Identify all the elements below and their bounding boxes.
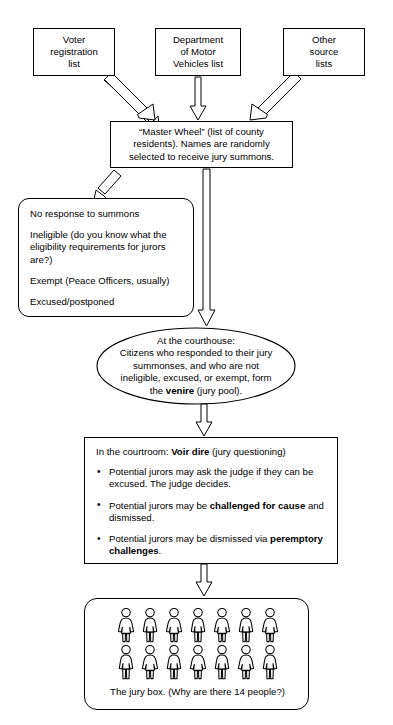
juror-figure-10	[164, 644, 184, 680]
source-box-voter-registration-list-text: Voter registration list	[48, 34, 99, 71]
venire-ellipse	[97, 328, 295, 404]
exclusion-item-no-response: No response to summons	[30, 208, 182, 220]
jury-people-group	[85, 607, 310, 680]
source-line-3: Vehicles list	[173, 58, 223, 69]
master-wheel-box: “Master Wheel” (list of county residents…	[110, 121, 293, 168]
venire-line-1: At the courthouse:	[120, 335, 273, 347]
source-box-dmv-list: Department of Motor Vehicles list	[155, 28, 241, 76]
venire-line-4: ineligible, excused, or exempt, form	[120, 372, 273, 384]
source-line-3: list	[68, 58, 80, 69]
juror-figure-3	[164, 607, 184, 643]
master-wheel-line-1: “Master Wheel” (list of county	[139, 126, 264, 137]
jury-selection-flowchart: Voter registration list Department of Mo…	[0, 0, 393, 725]
venire-line-5-post: (jury pool).	[194, 385, 242, 396]
arrow-other-to-master-wheel-head	[250, 104, 268, 120]
juror-figure-1	[116, 607, 136, 643]
juror-figure-5	[212, 607, 232, 643]
voir-dire-header: In the courtroom: Voir dire (jury questi…	[96, 446, 328, 458]
bullet-glyph-icon: •	[97, 533, 101, 545]
arrow-voir-dire-to-jury-box	[196, 564, 212, 596]
juror-figure-13	[236, 644, 256, 680]
exclusion-item-exempt: Exempt (Peace Officers, usually)	[30, 275, 182, 287]
juror-figure-11	[188, 644, 208, 680]
jury-people-row-top	[116, 607, 280, 643]
arrow-voter-to-master-wheel-head	[138, 104, 156, 120]
juror-figure-8	[116, 644, 136, 680]
arrow-other-to-master-wheel-shaft	[258, 72, 302, 116]
source-box-dmv-list-text: Department of Motor Vehicles list	[171, 34, 225, 71]
juror-figure-14	[260, 644, 280, 680]
bullet-3-post: .	[159, 545, 162, 556]
arrow-dmv-to-master-wheel	[190, 77, 206, 120]
jury-people-row-bottom	[116, 644, 280, 680]
venire-line-5: the venire (jury pool).	[120, 385, 273, 397]
source-box-other-source-lists: Other source lists	[283, 28, 365, 76]
master-wheel-line-2: residents). Names are randomly	[133, 138, 270, 149]
source-box-other-source-lists-text: Other source lists	[308, 34, 341, 71]
voir-dire-bullet-1: •Potential jurors may ask the judge if t…	[94, 466, 328, 490]
source-line-1: Other	[312, 34, 336, 45]
source-line-2: registration	[50, 46, 97, 57]
exclusion-item-ineligible: Ineligible (do you know what the eligibi…	[30, 229, 182, 266]
bullet-3-pre: Potential jurors may be dismissed via	[109, 533, 270, 544]
juror-figure-6	[236, 607, 256, 643]
juror-figure-2	[140, 607, 160, 643]
bullet-1-pre: Potential jurors may ask the judge if th…	[109, 466, 313, 489]
venire-ellipse-text: At the courthouse: Citizens who responde…	[98, 332, 294, 400]
voir-dire-bullet-3: •Potential jurors may be dismissed via p…	[94, 533, 328, 557]
juror-figure-12	[212, 644, 232, 680]
source-box-voter-registration-list: Voter registration list	[33, 28, 115, 76]
source-line-2: source	[310, 46, 339, 57]
voir-dire-box: In the courtroom: Voir dire (jury questi…	[84, 437, 338, 564]
bullet-2-pre: Potential jurors may be	[109, 500, 210, 511]
arrow-master-wheel-to-exclusions-shaft	[98, 170, 121, 194]
source-line-3: lists	[316, 58, 333, 69]
bullet-glyph-icon: •	[97, 499, 101, 511]
juror-figure-7	[260, 607, 280, 643]
venire-line-2: Citizens who responded to their jury	[120, 347, 273, 359]
voir-dire-bullet-2: •Potential jurors may be challenged for …	[94, 500, 328, 524]
voir-dire-header-pre: In the courtroom:	[96, 446, 171, 457]
source-line-1: Voter	[63, 34, 85, 45]
arrow-master-wheel-to-venire	[198, 169, 215, 326]
bullet-glyph-icon: •	[97, 466, 101, 478]
voir-dire-term: Voir dire	[171, 446, 209, 457]
juror-figure-4	[188, 607, 208, 643]
venire-term: venire	[166, 385, 194, 396]
arrow-venire-to-voir-dire	[196, 404, 212, 436]
master-wheel-line-3: selected to receive jury summons.	[129, 151, 274, 162]
voir-dire-bullet-list: •Potential jurors may ask the judge if t…	[94, 466, 328, 557]
exclusion-item-excused-postponed: Excused/postponed	[30, 296, 182, 308]
venire-line-3: summonses, and who are not	[120, 360, 273, 372]
voir-dire-header-post: (jury questioning)	[209, 446, 285, 457]
arrow-voter-to-master-wheel-shaft	[105, 73, 149, 117]
bullet-2-bold: challenged for cause	[210, 500, 305, 511]
venire-line-5-pre: the	[150, 385, 166, 396]
juror-figure-9	[140, 644, 160, 680]
source-line-2: of Motor	[180, 46, 215, 57]
jury-box-caption: The jury box. (Why are there 14 people?)	[85, 686, 310, 698]
source-line-1: Department	[173, 34, 223, 45]
jury-box: The jury box. (Why are there 14 people?)	[84, 598, 309, 710]
master-wheel-text: “Master Wheel” (list of county residents…	[124, 126, 279, 163]
exclusions-box: No response to summons Ineligible (do yo…	[18, 198, 194, 317]
